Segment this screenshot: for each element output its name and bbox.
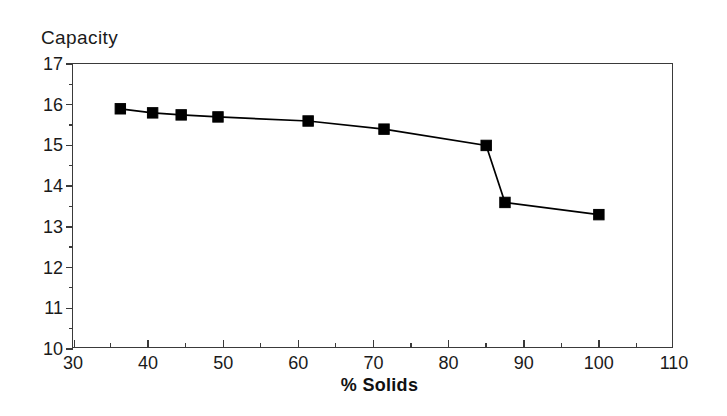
plot-area: 101112131415161730405060708090100110 xyxy=(72,63,673,348)
y-tick-major xyxy=(66,348,73,350)
y-tick-label: 17 xyxy=(43,54,63,75)
y-tick-minor xyxy=(69,287,73,288)
y-tick-minor xyxy=(69,328,73,329)
x-tick-major xyxy=(448,340,450,347)
y-axis-title: Capacity xyxy=(41,27,118,49)
y-tick-label: 12 xyxy=(43,257,63,278)
x-tick-label: 110 xyxy=(660,353,689,374)
data-point-marker xyxy=(147,108,157,118)
x-tick-minor xyxy=(185,343,186,347)
y-tick-major xyxy=(66,145,73,147)
x-tick-minor xyxy=(410,343,411,347)
x-tick-label: 70 xyxy=(363,353,383,374)
y-tick-major xyxy=(66,267,73,269)
y-tick-label: 11 xyxy=(44,298,63,319)
y-tick-label: 13 xyxy=(43,216,63,237)
y-tick-minor xyxy=(69,84,73,85)
x-tick-label: 40 xyxy=(138,353,158,374)
x-tick-major xyxy=(672,340,674,347)
data-point-marker xyxy=(115,104,125,114)
data-point-marker xyxy=(379,124,389,134)
x-tick-major xyxy=(74,340,76,347)
x-tick-major xyxy=(223,340,225,347)
capacity-markers xyxy=(115,104,604,220)
y-tick-minor xyxy=(69,206,73,207)
y-tick-label: 10 xyxy=(43,339,63,360)
x-tick-label: 100 xyxy=(584,353,614,374)
y-tick-major xyxy=(66,104,73,106)
y-tick-major xyxy=(66,308,73,310)
y-tick-label: 16 xyxy=(43,94,63,115)
x-tick-label: 80 xyxy=(439,353,459,374)
y-tick-label: 15 xyxy=(43,135,63,156)
data-point-marker xyxy=(500,197,510,207)
y-tick-major xyxy=(66,226,73,228)
x-tick-minor xyxy=(561,343,562,347)
capacity-line xyxy=(120,109,599,215)
x-tick-major xyxy=(373,340,375,347)
y-tick-minor xyxy=(69,246,73,247)
x-tick-minor xyxy=(485,343,486,347)
data-series-layer xyxy=(73,64,674,349)
y-tick-label: 14 xyxy=(43,176,63,197)
y-tick-minor xyxy=(69,165,73,166)
x-tick-minor xyxy=(636,343,637,347)
x-tick-label: 90 xyxy=(514,353,534,374)
data-point-marker xyxy=(303,116,313,126)
x-tick-major xyxy=(598,340,600,347)
x-tick-major xyxy=(147,340,149,347)
x-tick-label: 50 xyxy=(213,353,233,374)
x-axis-title: % Solids xyxy=(0,375,727,396)
data-point-marker xyxy=(594,209,604,219)
x-tick-label: 60 xyxy=(288,353,308,374)
x-tick-minor xyxy=(260,343,261,347)
x-tick-minor xyxy=(335,343,336,347)
capacity-vs-solids-chart: Capacity 1011121314151617304050607080901… xyxy=(0,0,727,416)
x-axis-title-label: % Solids xyxy=(341,375,418,395)
y-tick-major xyxy=(66,185,73,187)
x-tick-major xyxy=(298,340,300,347)
data-point-marker xyxy=(213,112,223,122)
x-tick-label: 30 xyxy=(63,353,83,374)
y-tick-major xyxy=(66,63,73,65)
data-point-marker xyxy=(176,110,186,120)
x-tick-minor xyxy=(110,343,111,347)
data-point-marker xyxy=(481,140,491,150)
x-tick-major xyxy=(523,340,525,347)
y-tick-minor xyxy=(69,124,73,125)
